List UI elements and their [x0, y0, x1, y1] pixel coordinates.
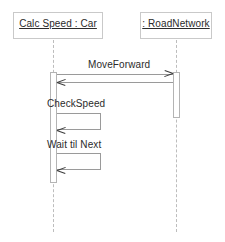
lifeline-roadnetwork [176, 40, 177, 232]
lifeline-box-roadnetwork[interactable]: : RoadNetwork [140, 12, 212, 39]
lifeline-label-roadnetwork: : RoadNetwork [141, 18, 211, 29]
sequence-diagram-canvas: Calc Speed : Car : RoadNetwork MoveForwa… [0, 0, 225, 242]
message-line-moveforward[interactable] [57, 74, 173, 75]
activation-bar-car[interactable] [50, 72, 57, 183]
message-line-return[interactable] [57, 82, 173, 83]
activation-bar-roadnetwork[interactable] [173, 72, 180, 118]
lifeline-box-car[interactable]: Calc Speed : Car [13, 12, 103, 39]
message-label-moveforward: MoveForward [88, 59, 150, 70]
lifeline-label-car: Calc Speed : Car [14, 18, 102, 29]
message-label-wait-til-next: Wait til Next [47, 139, 101, 150]
message-label-checkspeed: CheckSpeed [47, 98, 105, 109]
